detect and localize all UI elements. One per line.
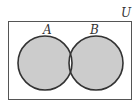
venn-diagram: A B U <box>0 0 140 107</box>
set-b-label: B <box>89 23 99 37</box>
set-a-label: A <box>42 23 52 37</box>
universe-label: U <box>121 6 132 20</box>
